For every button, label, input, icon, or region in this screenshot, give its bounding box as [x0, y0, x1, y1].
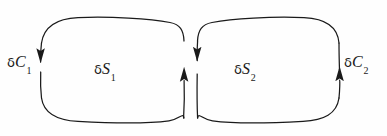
right-contour-left-edge [197, 41, 198, 61]
surface-label-right: δS2 [234, 61, 255, 80]
left-contour-left-edge-lower [41, 72, 42, 98]
surface-symbol: S [242, 60, 250, 77]
right-contour-left-edge-lower [197, 74, 198, 118]
right-contour-right-edge [339, 80, 340, 98]
left-contour-left-edge [40, 43, 41, 62]
left-contour-top [42, 17, 185, 43]
contour-label-right: δC2 [344, 54, 368, 73]
contour-symbol: C [352, 53, 363, 70]
surface-symbol: S [102, 60, 110, 77]
delta-glyph: δ [344, 55, 352, 70]
right-contour-top [198, 17, 340, 43]
delta-glyph: δ [234, 62, 242, 77]
contour-symbol: C [15, 53, 26, 70]
left-contour-bottom [42, 98, 185, 123]
delta-glyph: δ [7, 55, 15, 70]
surface-label-left: δS1 [94, 61, 115, 80]
right-contour-right-edge-upper [339, 43, 340, 70]
surface-subscript: 2 [251, 72, 256, 83]
contour-subscript: 1 [26, 65, 31, 76]
surface-subscript: 1 [111, 72, 116, 83]
right-contour-bottom [198, 98, 339, 123]
contour-subscript: 2 [363, 65, 368, 76]
contour-label-left: δC1 [7, 54, 31, 73]
contour-diagram [0, 0, 387, 136]
figure-container: δC1 δC2 δS1 δS2 [0, 0, 387, 136]
delta-glyph: δ [94, 62, 102, 77]
left-contour-right-edge [184, 81, 185, 119]
